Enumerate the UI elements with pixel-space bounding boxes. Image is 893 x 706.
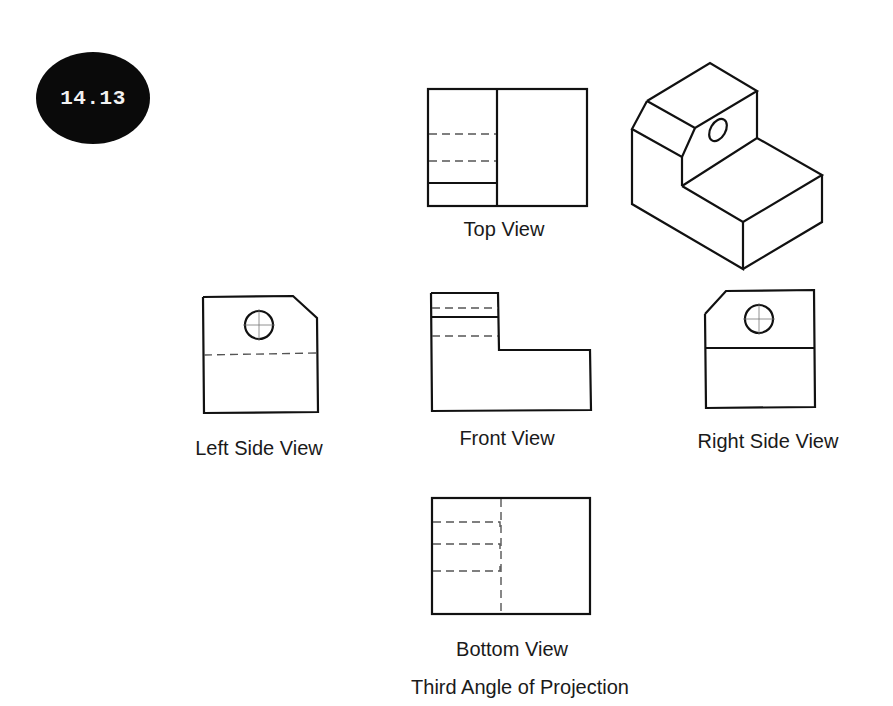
top-view-drawing bbox=[428, 89, 587, 206]
projection-caption: Third Angle of Projection bbox=[411, 676, 629, 699]
isometric-view-drawing bbox=[632, 63, 822, 269]
drawing-sheet: 14.13 bbox=[0, 0, 893, 706]
left-side-view-drawing bbox=[203, 296, 318, 413]
top-view-label: Top View bbox=[464, 218, 545, 241]
projection-drawing bbox=[0, 0, 893, 706]
bottom-view-drawing bbox=[432, 498, 590, 614]
right-side-view-drawing bbox=[705, 290, 815, 408]
front-view-label: Front View bbox=[459, 427, 554, 450]
front-view-drawing bbox=[431, 293, 591, 411]
right-side-view-label: Right Side View bbox=[698, 430, 839, 453]
bottom-view-label: Bottom View bbox=[456, 638, 568, 661]
left-side-view-label: Left Side View bbox=[195, 437, 323, 460]
